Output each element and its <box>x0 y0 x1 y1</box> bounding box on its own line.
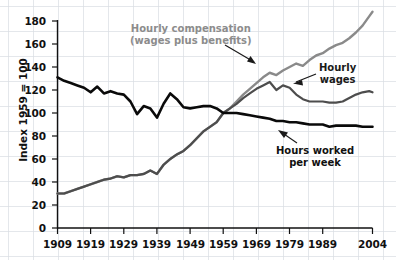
annotation-leader-lines <box>225 45 316 143</box>
annotation-hours-line2: per week <box>276 157 354 169</box>
x-tick-1989: 1989 <box>297 238 348 250</box>
leader-arrow-compensation <box>247 56 256 64</box>
leader-line-wages <box>296 74 316 82</box>
y-tick-20: 20 <box>10 199 46 211</box>
y-tick-60: 60 <box>10 153 46 165</box>
y-tick-0: 0 <box>10 222 46 234</box>
annotation-comp-line1: Hourly compensation <box>130 23 252 35</box>
annotation-wages-line1: Hourly <box>319 62 356 74</box>
y-tick-140: 140 <box>10 61 46 73</box>
annotation-hours-line1: Hours worked <box>276 145 354 157</box>
annotation-hourly-wages: Hourly wages <box>319 62 356 85</box>
y-axis-ticks <box>52 21 57 228</box>
x-axis-ticks <box>58 228 373 234</box>
y-tick-40: 40 <box>10 176 46 188</box>
annotation-wages-line2: wages <box>319 74 356 86</box>
y-tick-80: 80 <box>10 130 46 142</box>
annotation-comp-line2: (wages plus benefits) <box>130 35 252 47</box>
x-tick-2004: 2004 <box>347 238 396 250</box>
y-tick-100: 100 <box>10 107 46 119</box>
series-line-1 <box>58 82 373 194</box>
annotation-hourly-compensation: Hourly compensation (wages plus benefits… <box>130 23 252 46</box>
y-tick-180: 180 <box>10 15 46 27</box>
y-tick-120: 120 <box>10 84 46 96</box>
leader-arrow-hours <box>278 130 288 138</box>
annotation-hours-worked: Hours worked per week <box>276 145 354 168</box>
y-tick-160: 160 <box>10 38 46 50</box>
chart-figure: Index 1959 = 100 180 160 140 120 100 80 … <box>0 0 396 260</box>
